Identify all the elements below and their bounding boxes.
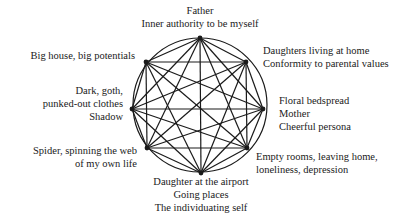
edge-lower-right-bottom (201, 148, 247, 173)
node-upper-left (144, 60, 149, 65)
label-daughters-living-at-home: Daughters living at home Conformity to p… (263, 44, 389, 70)
label-spider: Spider, spinning the web of my own life (33, 144, 137, 170)
label-father: Father Inner authority to be myself (130, 4, 270, 30)
label-big-house: Big house, big potentials (31, 49, 135, 62)
edge-upper-right-lower-right (246, 62, 247, 148)
node-lower-left (145, 146, 150, 151)
edge-right-upper-left (146, 62, 263, 109)
node-lower-right (245, 146, 250, 151)
edge-top-bottom (200, 38, 201, 173)
label-empty-rooms: Empty rooms, leaving home, loneliness, d… (256, 150, 378, 176)
node-top (198, 36, 203, 41)
node-upper-right (244, 60, 249, 65)
edge-upper-right-right (246, 62, 263, 109)
label-floral-bedspread: Floral bedspread Mother Cheerful persona (279, 94, 351, 133)
edge-right-lower-right (247, 109, 263, 148)
edge-right-lower-left (147, 109, 263, 148)
label-daughter-at-airport: Daughter at the airport Going places The… (130, 175, 272, 214)
edge-top-lower-left (147, 38, 200, 148)
node-right (261, 107, 266, 112)
edge-bottom-upper-left (146, 62, 201, 173)
edge-top-upper-left (146, 38, 200, 62)
edge-lower-left-upper-left (146, 62, 147, 148)
edge-lower-left-left (132, 109, 147, 148)
edge-bottom-lower-left (147, 148, 201, 173)
label-dark-goth: Dark, goth, punked-out clothes Shadow (43, 84, 123, 123)
node-left (130, 107, 135, 112)
